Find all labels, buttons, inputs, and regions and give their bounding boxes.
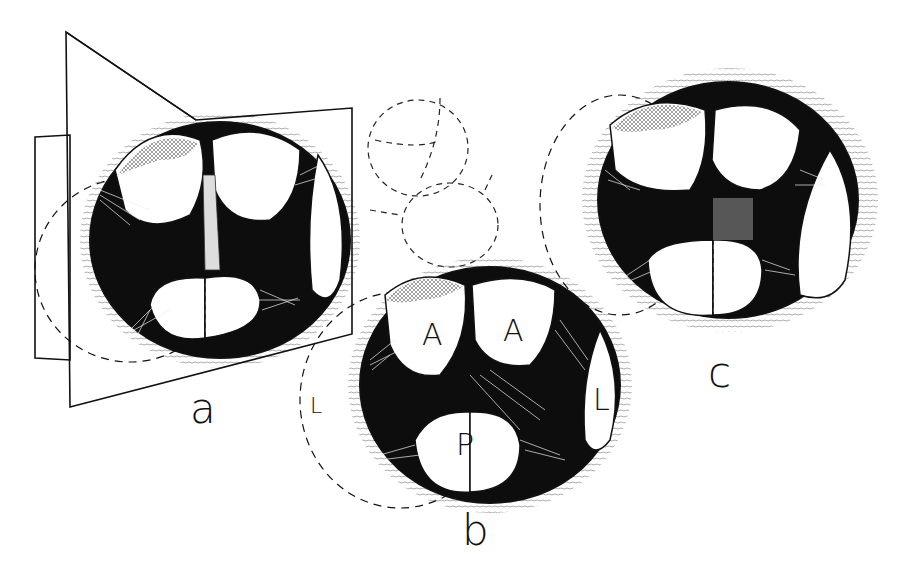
cusp-label-a-left: A — [422, 320, 443, 350]
panel-b-drawing — [300, 257, 632, 513]
cusp-label-p: P — [456, 430, 474, 460]
panel-a-drawing — [35, 32, 360, 407]
panel-label-c: c — [708, 352, 731, 394]
panel-label-a: a — [190, 388, 216, 430]
anatomical-illustration — [0, 0, 913, 578]
panel-c-drawing — [540, 68, 878, 332]
panel-label-b: b — [462, 510, 489, 552]
cusp-label-l-left: L — [310, 395, 322, 417]
cusp-label-l-right: L — [593, 385, 610, 415]
cusp-label-a-right: A — [503, 316, 524, 346]
dashed-sketch — [368, 98, 498, 267]
